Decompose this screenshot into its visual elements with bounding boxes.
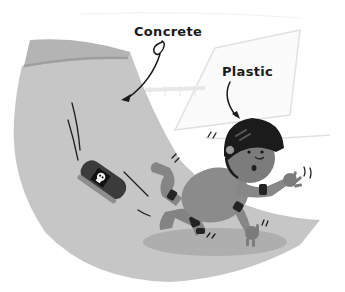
right-hand bbox=[283, 171, 302, 188]
label-plastic: Plastic bbox=[222, 64, 273, 79]
label-concrete: Concrete bbox=[134, 24, 202, 39]
skatepark-illustration: Concrete Plastic bbox=[0, 0, 345, 292]
illustration-canvas bbox=[0, 0, 345, 292]
